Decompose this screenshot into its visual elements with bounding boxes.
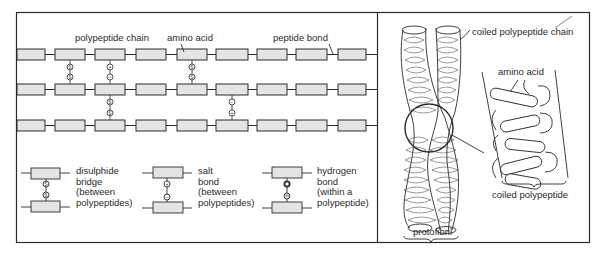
chain-row-3	[17, 120, 366, 131]
coiled-polypeptide-illustration	[482, 70, 568, 190]
disulphide-bond-3: S S	[107, 95, 113, 120]
svg-text:+: +	[109, 64, 112, 70]
svg-text:−: −	[166, 194, 169, 200]
disulphide-bond-1: S S	[67, 60, 73, 84]
label-coiled-polypeptide-chain: coiled polypeptide chain	[472, 27, 573, 38]
legend-hydrogen-graphic: H	[262, 167, 312, 213]
svg-text:+: +	[166, 181, 169, 187]
svg-text:−: −	[109, 74, 112, 80]
polypeptide-chains	[17, 49, 377, 131]
label-peptide-bond: peptide bond	[273, 33, 328, 44]
label-amino-acid-detail: amino acid	[498, 67, 544, 78]
legend-disulphide-graphic: S S	[21, 168, 70, 212]
salt-bond-1: + −	[107, 60, 113, 84]
chain-row-1	[17, 49, 366, 60]
legend-salt-label: salt bond (between polypeptides)	[198, 166, 255, 208]
label-coiled-polypeptide: coiled polypeptide	[492, 190, 568, 201]
svg-text:−: −	[231, 99, 234, 105]
label-polypeptide-chain: polypeptide chain	[75, 33, 149, 44]
label-protofibril: protofibril	[413, 227, 452, 238]
disulphide-bond-2: S S	[189, 60, 195, 84]
legend-salt-graphic: + −	[142, 167, 192, 213]
label-amino-acid: amino acid	[167, 33, 213, 44]
legend-disulphide-label: disulphide bridge (between polypeptides)	[76, 166, 133, 208]
legend-graphics: S S + − H	[21, 167, 312, 213]
svg-text:H: H	[285, 193, 289, 199]
protofibril-illustration	[401, 16, 572, 242]
legend-hydrogen-label: hydrogen bond (within a polypeptide)	[317, 166, 369, 208]
svg-text:+: +	[231, 110, 234, 116]
chain-row-2	[17, 84, 366, 95]
salt-bond-2: − +	[229, 95, 235, 120]
